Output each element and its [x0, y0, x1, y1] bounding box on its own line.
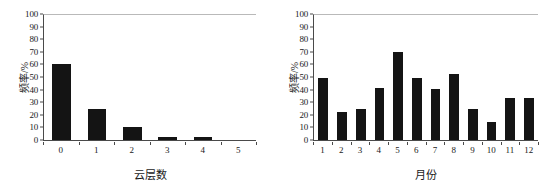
x-tick-label: 10: [487, 145, 496, 156]
x-tick-mark: [185, 142, 186, 145]
y-axis-label-left: 频率/%: [16, 48, 31, 108]
x-tick-mark: [256, 142, 257, 145]
x-tick-mark: [114, 142, 115, 145]
x-tick-label: 1: [320, 145, 325, 156]
x-tick-label: 8: [451, 145, 456, 156]
x-tick-label: 4: [376, 145, 381, 156]
x-tick-label: 5: [236, 145, 241, 156]
y-tick-mark: [40, 102, 43, 103]
x-tick-label: 7: [433, 145, 438, 156]
y-axis-right: 0102030405060708090100: [313, 14, 538, 141]
x-tick-mark: [79, 142, 80, 145]
x-tick-label: 12: [524, 145, 533, 156]
x-tick-label: 2: [339, 145, 344, 156]
y-tick-mark: [310, 64, 313, 65]
x-axis-left: 012345: [43, 142, 256, 156]
y-tick-label: 20: [299, 110, 308, 119]
x-tick-mark: [332, 142, 333, 145]
figure-two-bar-charts: 0102030405060708090100 012345 频率/% 云层数 0…: [0, 0, 552, 191]
y-tick-mark: [40, 39, 43, 40]
x-tick-label: 4: [201, 145, 206, 156]
x-tick-label: 3: [358, 145, 363, 156]
x-tick-label: 0: [59, 145, 64, 156]
y-tick-mark: [310, 140, 313, 141]
x-tick-mark: [150, 142, 151, 145]
y-tick-label: 100: [295, 10, 308, 19]
y-tick-label: 90: [299, 22, 308, 31]
y-tick-label: 90: [29, 22, 38, 31]
x-tick-mark: [538, 142, 539, 145]
x-tick-mark: [351, 142, 352, 145]
y-tick-label: 80: [29, 35, 38, 44]
y-tick-mark: [310, 89, 313, 90]
y-tick-label: 10: [29, 123, 38, 132]
y-tick-mark: [310, 77, 313, 78]
y-tick-label: 20: [29, 110, 38, 119]
y-tick-mark: [310, 51, 313, 52]
x-tick-mark: [407, 142, 408, 145]
x-tick-mark: [426, 142, 427, 145]
x-tick-label: 2: [130, 145, 135, 156]
y-tick-label: 0: [304, 136, 308, 145]
x-tick-mark: [388, 142, 389, 145]
x-tick-label: 5: [395, 145, 400, 156]
y-tick-mark: [310, 102, 313, 103]
x-tick-mark: [221, 142, 222, 145]
y-tick-label: 10: [299, 123, 308, 132]
x-tick-label: 9: [470, 145, 475, 156]
y-tick-label: 50: [299, 73, 308, 82]
plot-area-cloud-layers: 0102030405060708090100 012345: [43, 14, 256, 141]
plot-area-months: 0102030405060708090100 123456789101112: [313, 14, 538, 141]
x-tick-mark: [444, 142, 445, 145]
x-tick-mark: [463, 142, 464, 145]
x-tick-mark: [482, 142, 483, 145]
y-tick-label: 40: [299, 85, 308, 94]
y-tick-label: 50: [29, 73, 38, 82]
y-tick-mark: [310, 14, 313, 15]
y-tick-mark: [40, 64, 43, 65]
x-tick-label: 6: [414, 145, 419, 156]
x-axis-right: 123456789101112: [313, 142, 538, 156]
x-tick-mark: [369, 142, 370, 145]
y-axis-left: 0102030405060708090100: [43, 14, 256, 141]
y-tick-label: 70: [29, 47, 38, 56]
y-tick-mark: [40, 14, 43, 15]
y-tick-label: 70: [299, 47, 308, 56]
x-tick-mark: [313, 142, 314, 145]
y-tick-label: 0: [34, 136, 38, 145]
y-tick-label: 60: [299, 60, 308, 69]
y-tick-mark: [310, 127, 313, 128]
y-tick-mark: [310, 26, 313, 27]
y-tick-mark: [40, 140, 43, 141]
x-axis-label-right: 月份: [415, 166, 437, 182]
y-axis-label-right: 频率/%: [286, 48, 301, 108]
y-tick-mark: [40, 26, 43, 27]
y-tick-mark: [40, 77, 43, 78]
x-tick-label: 1: [94, 145, 99, 156]
y-tick-mark: [40, 127, 43, 128]
y-tick-mark: [40, 114, 43, 115]
y-tick-label: 30: [299, 98, 308, 107]
y-tick-mark: [310, 114, 313, 115]
y-tick-label: 30: [29, 98, 38, 107]
y-tick-label: 60: [29, 60, 38, 69]
y-tick-label: 40: [29, 85, 38, 94]
x-tick-mark: [519, 142, 520, 145]
x-tick-label: 3: [165, 145, 170, 156]
x-tick-mark: [501, 142, 502, 145]
chart-panel-months: 0102030405060708090100 123456789101112 频…: [276, 0, 552, 191]
chart-panel-cloud-layers: 0102030405060708090100 012345 频率/% 云层数: [0, 0, 276, 191]
y-tick-mark: [310, 39, 313, 40]
y-tick-label: 100: [25, 10, 38, 19]
x-axis-label-left: 云层数: [134, 166, 167, 182]
y-tick-mark: [40, 89, 43, 90]
y-tick-mark: [40, 51, 43, 52]
x-tick-mark: [43, 142, 44, 145]
x-tick-label: 11: [506, 145, 515, 156]
y-tick-label: 80: [299, 35, 308, 44]
